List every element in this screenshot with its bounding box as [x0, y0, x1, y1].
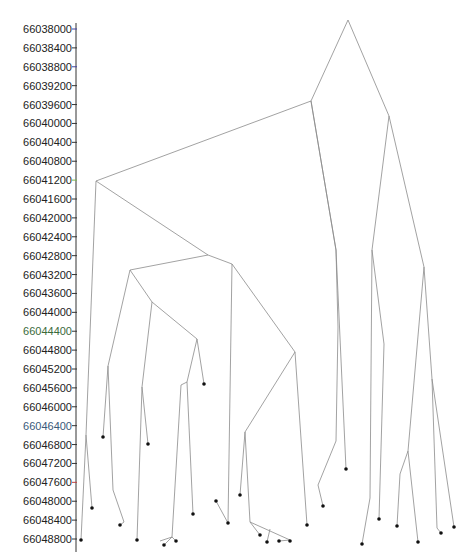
leaf-node — [146, 442, 150, 446]
tree-edge — [96, 101, 311, 181]
tree-edge — [142, 302, 152, 387]
tree-edge — [130, 255, 208, 270]
leaf-node — [191, 512, 195, 516]
tree-edge — [113, 490, 124, 522]
leaf-node — [226, 521, 230, 525]
tree-edge — [424, 267, 432, 379]
tree-diagram — [0, 0, 473, 559]
leaf-node — [344, 467, 348, 471]
y-axis — [72, 23, 77, 552]
tree-edge — [86, 435, 92, 508]
leaf-node — [277, 539, 281, 543]
tree-edge — [103, 366, 108, 437]
tree-edge — [397, 474, 400, 526]
tree-edge — [348, 20, 389, 116]
tree-edge — [245, 432, 250, 522]
tree-edge — [86, 181, 96, 435]
leaf-node — [101, 435, 105, 439]
tree-edge — [130, 270, 152, 302]
leaf-node — [118, 523, 122, 527]
tree-edge — [152, 302, 197, 339]
tree-edge — [108, 270, 130, 366]
leaf-node — [214, 499, 218, 503]
leaf-node — [321, 504, 325, 508]
tree-edge — [172, 385, 181, 537]
leaf-node — [258, 533, 262, 537]
tree-edge — [318, 485, 323, 506]
tree-edge — [267, 529, 270, 542]
tree-edge — [311, 20, 348, 101]
tree-edge — [137, 387, 142, 540]
tree-edge — [311, 101, 336, 250]
tree-edge — [232, 264, 295, 352]
leaf-node — [202, 382, 206, 386]
tree-edge — [432, 379, 437, 528]
tree-edge — [187, 339, 197, 382]
tree-edge — [379, 344, 384, 519]
leaf-node — [360, 542, 364, 546]
tree-edge — [216, 501, 228, 523]
tree-edge — [372, 116, 389, 250]
tree-edge — [197, 339, 204, 384]
tree-edge — [432, 379, 454, 527]
tree-edge — [187, 382, 193, 514]
tree-edge — [372, 250, 384, 344]
leaf-node — [395, 524, 399, 528]
tree-edge — [240, 432, 245, 495]
tree-edge — [408, 451, 418, 542]
tree-edge — [336, 327, 338, 441]
leaf-node — [135, 538, 139, 542]
tree-edge — [362, 498, 370, 544]
tree-edge — [408, 267, 424, 451]
tree-edge — [81, 435, 86, 540]
leaf-node — [439, 531, 443, 535]
tree-edges — [81, 20, 454, 545]
tree-edge — [295, 352, 307, 525]
tree-edge — [389, 116, 424, 267]
leaf-node — [90, 506, 94, 510]
tree-edge — [245, 352, 295, 432]
leaf-node — [162, 543, 166, 547]
leaf-node — [238, 493, 242, 497]
leaf-node — [305, 523, 309, 527]
tree-edge — [181, 382, 187, 385]
tree-edge — [228, 264, 232, 523]
tree-leaves — [79, 382, 456, 547]
leaf-node — [452, 525, 456, 529]
leaf-node — [377, 517, 381, 521]
tree-edge — [142, 387, 148, 444]
tree-edge — [208, 255, 232, 264]
leaf-node — [174, 539, 178, 543]
tree-edge — [108, 366, 113, 490]
tree-edge — [250, 522, 290, 540]
leaf-node — [288, 539, 292, 543]
leaf-node — [265, 540, 269, 544]
tree-edge — [318, 441, 336, 485]
leaf-node — [79, 538, 83, 542]
leaf-node — [416, 540, 420, 544]
tree-edge — [400, 451, 408, 474]
tree-edge — [96, 181, 208, 255]
tree-edge — [370, 250, 372, 498]
